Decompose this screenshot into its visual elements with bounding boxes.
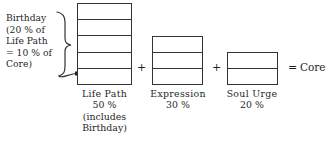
bar-segment — [78, 4, 131, 20]
bar-segment — [78, 20, 131, 36]
annotation-line-3: Life Path — [6, 35, 58, 47]
caption-name: Expression — [147, 88, 209, 99]
caption-name: Life Path — [62, 88, 147, 99]
bar-soul-urge — [227, 52, 278, 85]
caption-soul-urge: Soul Urge 20 % — [221, 88, 283, 111]
bar-segment — [153, 53, 202, 69]
caption-life-path: Life Path 50 % (includes Birthday) — [62, 88, 147, 134]
equals-operator: = — [288, 62, 297, 73]
bar-life-path — [77, 3, 132, 85]
bar-segment — [153, 37, 202, 53]
caption-name: Soul Urge — [221, 88, 283, 99]
bar-segment — [228, 53, 277, 69]
bar-segment — [153, 69, 202, 84]
caption-note-line-2: Birthday) — [62, 122, 147, 133]
caption-percent: 30 % — [147, 99, 209, 110]
plus-operator-1: + — [137, 62, 146, 73]
annotation-line-2: (20 % of — [6, 24, 58, 36]
birthday-annotation: Birthday (20 % of Life Path = 10 % of Co… — [6, 12, 58, 70]
bar-segment — [78, 53, 131, 69]
caption-note-line-1: (includes — [62, 111, 147, 122]
caption-percent: 50 % — [62, 99, 147, 110]
core-result-label: Core — [300, 61, 326, 73]
numerology-core-diagram: Birthday (20 % of Life Path = 10 % of Co… — [0, 0, 335, 146]
bar-segment — [228, 69, 277, 84]
bar-segment-birthday — [78, 69, 131, 84]
plus-operator-2: + — [212, 62, 221, 73]
bar-segment — [78, 36, 131, 52]
caption-percent: 20 % — [221, 99, 283, 110]
annotation-line-5: Core) — [6, 58, 58, 70]
bar-expression — [152, 36, 203, 85]
annotation-line-1: Birthday — [6, 12, 58, 24]
annotation-line-4: = 10 % of — [6, 47, 58, 59]
caption-expression: Expression 30 % — [147, 88, 209, 111]
